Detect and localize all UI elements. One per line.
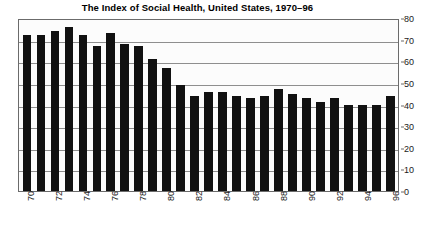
bar-slot: [160, 20, 174, 191]
bar-slot: [299, 20, 313, 191]
x-slot: [286, 193, 300, 245]
bar-76: [106, 33, 115, 191]
x-slot: 76: [103, 193, 117, 245]
bar-slot: [174, 20, 188, 191]
bar-75: [93, 46, 102, 191]
x-tick-label-96: 96: [391, 191, 401, 201]
x-slot: [201, 193, 215, 245]
bar-slot: [104, 20, 118, 191]
bar-slot: [202, 20, 216, 191]
x-slot: 86: [244, 193, 258, 245]
bar-slot: [118, 20, 132, 191]
bar-91: [316, 102, 325, 191]
y-tick-label-0: 0: [404, 187, 409, 197]
x-axis: 7072747678808284868890929496: [18, 193, 399, 245]
bar-94: [358, 105, 367, 192]
plot-area: [18, 19, 399, 192]
x-slot: [61, 193, 75, 245]
bar-slot: [271, 20, 285, 191]
y-tick-label-40: 40: [404, 101, 414, 111]
social-health-bar-chart: The Index of Social Health, United State…: [0, 0, 429, 247]
bar-73: [65, 27, 74, 191]
bar-88: [274, 89, 283, 191]
bar-87: [260, 96, 269, 191]
y-axis: 01020304050607080: [401, 19, 429, 192]
bar-slot: [90, 20, 104, 191]
bar-slot: [383, 20, 397, 191]
y-tick-label-20: 20: [404, 144, 414, 154]
x-slot: [117, 193, 131, 245]
bar-slot: [132, 20, 146, 191]
x-slot: 84: [215, 193, 229, 245]
x-slot: [342, 193, 356, 245]
bar-slot: [369, 20, 383, 191]
bar-71: [37, 35, 46, 191]
bar-80: [162, 68, 171, 191]
bar-slot: [341, 20, 355, 191]
bar-82: [190, 96, 199, 191]
x-slot: [33, 193, 47, 245]
y-tick-label-10: 10: [404, 165, 414, 175]
bar-slot: [188, 20, 202, 191]
x-slot: 94: [356, 193, 370, 245]
bar-83: [204, 92, 213, 191]
y-tick-label-30: 30: [404, 122, 414, 132]
y-tick-label-80: 80: [404, 14, 414, 24]
chart-title: The Index of Social Health, United State…: [0, 2, 395, 13]
bar-slot: [20, 20, 34, 191]
bar-slot: [285, 20, 299, 191]
x-slot: 82: [187, 193, 201, 245]
x-slot: 88: [272, 193, 286, 245]
bar-84: [218, 92, 227, 191]
bar-77: [120, 44, 129, 191]
bar-slot: [313, 20, 327, 191]
bar-slot: [355, 20, 369, 191]
x-slot: [89, 193, 103, 245]
x-slot: [173, 193, 187, 245]
x-slot: 92: [328, 193, 342, 245]
bar-slot: [257, 20, 271, 191]
bar-81: [176, 85, 185, 191]
bar-79: [148, 59, 157, 191]
bar-slot: [327, 20, 341, 191]
y-tick-label-70: 70: [404, 36, 414, 46]
bar-slot: [216, 20, 230, 191]
x-slot: 74: [75, 193, 89, 245]
bar-slot: [48, 20, 62, 191]
bar-93: [344, 105, 353, 192]
x-slot: 78: [131, 193, 145, 245]
bar-slot: [146, 20, 160, 191]
bar-slot: [34, 20, 48, 191]
x-slot: [258, 193, 272, 245]
bar-slot: [230, 20, 244, 191]
x-slot: 96: [384, 193, 398, 245]
bar-86: [246, 98, 255, 191]
bars-container: [19, 20, 398, 191]
bar-92: [330, 98, 339, 191]
x-slot: 70: [19, 193, 33, 245]
x-slot: [229, 193, 243, 245]
bar-slot: [62, 20, 76, 191]
x-slot: [370, 193, 384, 245]
x-slot: 90: [300, 193, 314, 245]
x-slot: [145, 193, 159, 245]
x-slot: 80: [159, 193, 173, 245]
x-slot: [314, 193, 328, 245]
y-tick-label-60: 60: [404, 57, 414, 67]
bar-slot: [244, 20, 258, 191]
bar-slot: [76, 20, 90, 191]
y-tick-label-50: 50: [404, 79, 414, 89]
bar-74: [79, 35, 88, 191]
bar-72: [51, 31, 60, 191]
bar-70: [23, 35, 32, 191]
bar-85: [232, 96, 241, 191]
bar-95: [372, 105, 381, 192]
x-slot: 72: [47, 193, 61, 245]
bar-90: [302, 98, 311, 191]
bar-78: [134, 46, 143, 191]
bar-96: [386, 96, 395, 191]
bar-89: [288, 94, 297, 191]
